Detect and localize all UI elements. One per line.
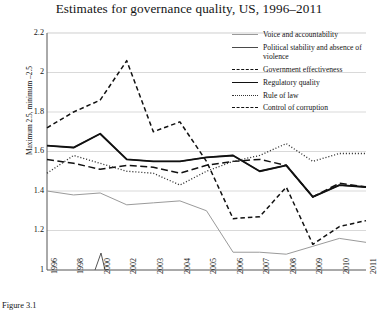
figure-caption: Figure 3.1 [2,301,36,310]
y-tick-2: 2 [14,68,44,76]
y-tick-1: 1 [14,266,44,274]
legend-swatch-rule-of-law [232,91,258,100]
x-tick-2009: 2009 [316,258,324,274]
y-tick-1-6: 1.6 [14,147,44,155]
legend-label-control-of-corruption: Control of corruption [263,103,328,112]
chart-legend: Voice and accountabilityPolitical stabil… [232,30,378,116]
x-tick-2008: 2008 [290,258,298,274]
x-tick-2002: 2002 [130,258,138,274]
legend-item-control-of-corruption: Control of corruption [232,103,378,112]
x-tick-2007: 2007 [263,258,271,274]
legend-item-voice-and-accountability: Voice and accountability [232,30,378,39]
chart-title: Estimates for governance quality, US, 19… [0,1,378,17]
legend-label-voice-and-accountability: Voice and accountability [263,30,338,39]
x-tick-2000: 2000 [104,258,112,274]
legend-label-regulatory-quality: Regulatory quality [263,78,320,87]
x-tick-2005: 2005 [210,258,218,274]
legend-item-regulatory-quality: Regulatory quality [232,78,378,87]
legend-item-political-stability-and-absence-of-violence: Political stability and absence of viole… [232,43,378,62]
legend-item-rule-of-law: Rule of law [232,91,378,100]
legend-label-government-effectiveness: Government effectiveness [263,65,342,74]
legend-swatch-political-stability-and-absence-of-violence [232,43,258,52]
series-line-rule-of-law [47,144,366,185]
y-tick-1-8: 1.8 [14,108,44,116]
legend-swatch-government-effectiveness [232,65,258,74]
y-tick-1-4: 1.4 [14,187,44,195]
x-tick-2011: 2011 [370,258,378,274]
x-tick-2006: 2006 [237,258,245,274]
y-axis-tick-labels: 2.221.81.61.41.21 [8,0,44,319]
y-tick-1-2: 1.2 [14,226,44,234]
legend-label-political-stability-and-absence-of-violence: Political stability and absence of viole… [263,43,378,62]
x-tick-2003: 2003 [157,258,165,274]
x-tick-1996: 1996 [51,258,59,274]
series-line-voice-and-accountability [47,191,366,254]
legend-swatch-voice-and-accountability [232,30,258,39]
x-tick-1998: 1998 [77,258,85,274]
x-tick-2010: 2010 [343,258,351,274]
legend-item-government-effectiveness: Government effectiveness [232,65,378,74]
legend-swatch-control-of-corruption [232,103,258,112]
x-tick-2004: 2004 [184,258,192,274]
legend-label-rule-of-law: Rule of law [263,91,298,100]
legend-swatch-regulatory-quality [232,78,258,87]
y-tick-2-2: 2.2 [14,29,44,37]
